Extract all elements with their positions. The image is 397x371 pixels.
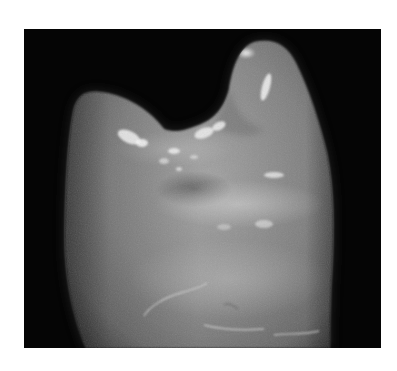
tooth-illustration	[24, 29, 381, 348]
figure-canvas: Grayscale photograph of a tooth with two…	[0, 0, 397, 371]
tooth-photograph	[24, 29, 381, 348]
